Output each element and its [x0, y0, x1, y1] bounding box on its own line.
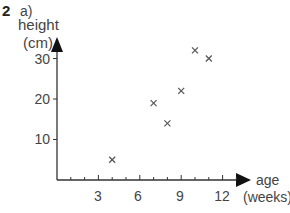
data-point-marker	[164, 120, 170, 126]
axes	[51, 37, 251, 187]
data-point-marker	[109, 157, 115, 163]
data-point-marker	[192, 47, 198, 53]
scatter-plot	[0, 0, 290, 213]
data-point-marker	[206, 56, 212, 62]
data-point-marker	[178, 88, 184, 94]
data-points	[109, 47, 212, 162]
data-point-marker	[151, 100, 157, 106]
